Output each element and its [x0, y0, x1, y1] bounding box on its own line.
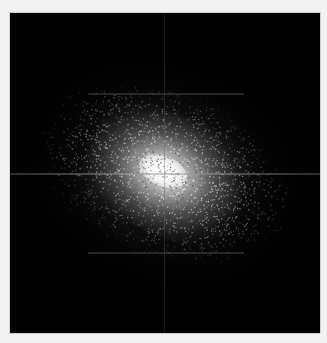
lower-artifact-band — [88, 252, 244, 254]
horizontal-axis-line — [10, 173, 320, 175]
vertical-axis-line — [164, 13, 165, 333]
speckle-noise — [10, 13, 320, 333]
spectrum-center-peak — [134, 148, 192, 195]
upper-artifact-band — [88, 93, 244, 95]
spectrum-image: 2D Fourier transform magnitude spectrum:… — [10, 13, 320, 333]
spectrum-outer-haze — [13, 36, 316, 309]
spectrum-glow — [68, 87, 261, 258]
